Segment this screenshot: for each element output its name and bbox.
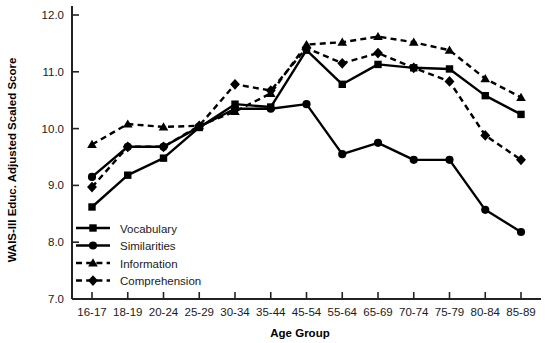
y-tick-label: 9.0 [48, 179, 64, 191]
x-tick-label: 18-19 [113, 306, 142, 318]
series-comprehension [87, 43, 526, 193]
x-tick-label: 45-54 [292, 306, 322, 318]
marker-circle [374, 139, 382, 147]
x-tick-label: 20-24 [149, 306, 179, 318]
legend-item-similarities: Similarities [76, 240, 176, 252]
y-tick-label: 12.0 [42, 9, 64, 21]
x-tick-label: 16-17 [77, 306, 106, 318]
marker-diamond [337, 58, 347, 69]
legend-item-information: Information [76, 258, 178, 270]
marker-circle [302, 100, 310, 108]
marker-circle [517, 228, 525, 236]
marker-circle [445, 156, 453, 164]
legend-item-comprehension: Comprehension [76, 275, 201, 287]
x-tick-label: 25-29 [185, 306, 214, 318]
legend-item-vocabulary: Vocabulary [76, 223, 177, 235]
marker-triangle [480, 74, 490, 82]
legend-label: Similarities [120, 240, 176, 252]
series-similarities [88, 100, 525, 236]
legend-label: Information [120, 258, 178, 270]
y-tick-label: 11.0 [42, 66, 64, 78]
series-line [92, 48, 521, 187]
data-series [87, 32, 526, 236]
marker-square [517, 111, 524, 118]
marker-circle [338, 150, 346, 158]
x-tick-label: 85-89 [506, 306, 535, 318]
x-tick-label: 70-74 [399, 306, 429, 318]
y-tick-label: 8.0 [48, 236, 64, 248]
marker-diamond [409, 62, 419, 73]
chart-figure: 7.08.09.010.011.012.0 16-1718-1920-2425-… [0, 0, 550, 343]
marker-triangle [409, 38, 419, 46]
marker-circle [88, 173, 96, 181]
x-tick-label: 75-79 [435, 306, 464, 318]
marker-circle [267, 105, 275, 113]
series-vocabulary [88, 47, 524, 211]
x-tick-label: 55-64 [328, 306, 358, 318]
marker-diamond [230, 79, 240, 90]
y-axis-title: WAIS-III Educ. Adjusted Scaled Score [6, 58, 18, 263]
chart-legend: VocabularySimilaritiesInformationCompreh… [76, 223, 201, 288]
marker-circle [481, 206, 489, 214]
y-tick-label: 7.0 [48, 293, 64, 305]
marker-square [88, 203, 95, 210]
y-tick-label: 10.0 [42, 123, 64, 135]
legend-label: Vocabulary [120, 223, 177, 235]
marker-square [374, 61, 381, 68]
x-tick-label: 30-34 [220, 306, 250, 318]
marker-diamond [373, 48, 383, 59]
x-axis-title: Age Group [270, 327, 329, 339]
line-chart: 7.08.09.010.011.012.0 16-1718-1920-2425-… [0, 0, 550, 343]
marker-square [339, 81, 346, 88]
series-line [92, 104, 521, 232]
marker-square [160, 154, 167, 161]
marker-circle [410, 156, 418, 164]
x-tick-label: 35-44 [256, 306, 286, 318]
marker-square [482, 92, 489, 99]
marker-diamond [445, 76, 455, 87]
marker-square [89, 224, 96, 231]
y-axis-ticks: 7.08.09.010.011.012.0 [42, 9, 79, 305]
marker-diamond [88, 275, 98, 286]
x-tick-label: 65-69 [363, 306, 392, 318]
marker-circle [89, 241, 97, 249]
series-line [92, 50, 521, 207]
legend-label: Comprehension [120, 275, 201, 287]
x-axis-ticks: 16-1718-1920-2425-2930-3435-4445-5455-64… [77, 292, 535, 318]
marker-diamond [159, 141, 169, 152]
marker-square [124, 171, 131, 178]
x-tick-label: 80-84 [471, 306, 501, 318]
marker-square [446, 65, 453, 72]
